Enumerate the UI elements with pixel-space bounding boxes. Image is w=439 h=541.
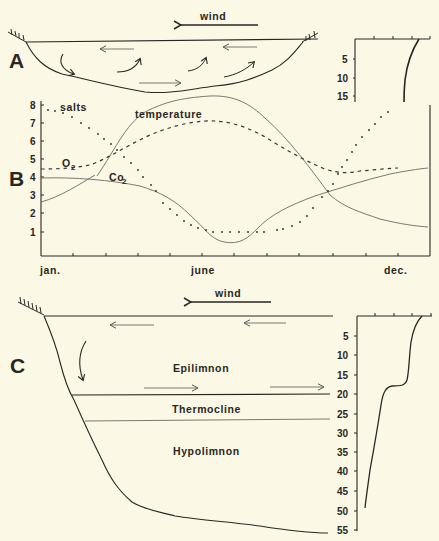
- layer-label-thermocline: Thermocline: [172, 403, 241, 415]
- lake-bed-c: [44, 316, 328, 533]
- chart-b-y-tick-labels: 1 2 3 4 5 6 7 8: [30, 100, 36, 238]
- svg-text:35: 35: [337, 447, 349, 458]
- svg-text:5: 5: [30, 154, 36, 165]
- svg-text:2: 2: [71, 163, 76, 172]
- layer-label-hypolimnion: Hypolimnon: [173, 445, 240, 457]
- thermocline-hypolimnion-boundary: [85, 419, 330, 421]
- profile-a-tick-10: 10: [337, 73, 349, 84]
- svg-text:55: 55: [337, 525, 349, 536]
- svg-text:25: 25: [337, 409, 349, 420]
- svg-text:15: 15: [337, 370, 349, 381]
- profile-chart-c: 5 10 15 20 25 30 35 40 45 50 55: [337, 313, 432, 536]
- profile-chart-a: 5 10 15: [337, 36, 430, 102]
- label-o2: O 2: [62, 157, 76, 172]
- x-label-jan: jan.: [39, 264, 61, 276]
- svg-text:4: 4: [30, 172, 36, 183]
- temperature-profile-c: [365, 316, 422, 508]
- circulation-arrows-c: [80, 323, 324, 388]
- x-label-dec: dec.: [384, 264, 407, 276]
- svg-text:1: 1: [30, 227, 36, 238]
- profile-c-tick-labels: 5 10 15 20 25 30 35 40 45 50 55: [337, 331, 349, 536]
- lake-bed-a: [26, 42, 303, 93]
- epilimnion-thermocline-boundary: [72, 394, 330, 395]
- panel-a-label: A: [9, 49, 24, 72]
- svg-text:8: 8: [30, 100, 36, 111]
- svg-text:40: 40: [337, 466, 349, 477]
- panel-b-label: B: [9, 167, 24, 190]
- series-o2: [41, 121, 398, 173]
- series-salts: [47, 109, 389, 233]
- svg-text:7: 7: [30, 118, 36, 129]
- label-co2: Co 2: [109, 171, 127, 186]
- label-temperature: temperature: [135, 108, 202, 120]
- svg-text:2: 2: [30, 208, 36, 219]
- shore-vegetation-c-icon: [18, 297, 44, 315]
- label-salts: salts: [60, 101, 87, 113]
- x-label-june: june: [190, 264, 215, 276]
- chart-b-ticks: [41, 105, 398, 256]
- svg-text:20: 20: [337, 389, 349, 400]
- wind-label-c: wind: [214, 287, 241, 299]
- panel-b: B 1 2 3 4 5 6 7 8 jan. june: [9, 96, 430, 276]
- svg-text:3: 3: [30, 190, 36, 201]
- limnology-figure: A wind: [0, 0, 439, 541]
- svg-text:30: 30: [337, 428, 349, 439]
- svg-text:5: 5: [343, 331, 349, 342]
- series-temperature: [41, 96, 428, 227]
- svg-text:10: 10: [337, 350, 349, 361]
- wind-label-a: wind: [199, 10, 226, 22]
- panel-c-label: C: [10, 354, 25, 377]
- series-co2: [41, 168, 428, 243]
- svg-text:6: 6: [30, 136, 36, 147]
- panel-c: C wind Epilimnon Thermocline Hypolimnon: [10, 287, 432, 536]
- layer-label-epilimnion: Epilimnon: [173, 362, 229, 374]
- profile-a-tick-15: 15: [337, 91, 349, 102]
- svg-text:O: O: [62, 157, 71, 169]
- panel-a: A wind: [8, 10, 430, 102]
- circulation-arrows-a: [61, 47, 257, 83]
- svg-text:45: 45: [337, 486, 349, 497]
- profile-a-tick-5: 5: [342, 54, 348, 65]
- svg-text:2: 2: [122, 177, 127, 186]
- svg-text:50: 50: [337, 506, 349, 517]
- water-surface-a: [26, 39, 318, 42]
- temperature-profile-a: [404, 39, 419, 102]
